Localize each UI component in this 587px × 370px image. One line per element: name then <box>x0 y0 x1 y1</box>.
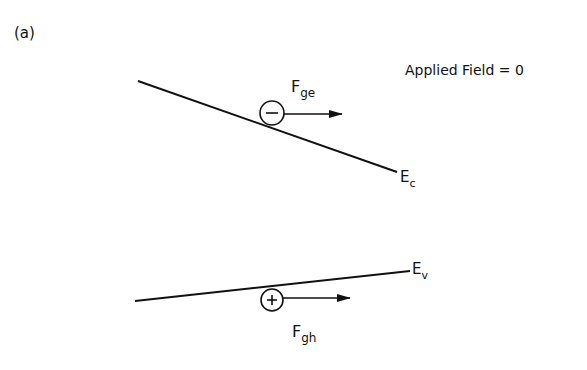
electron-force-label: Fge <box>291 77 315 100</box>
hole-force-label: Fgh <box>292 322 316 345</box>
condition-label: Applied Field = 0 <box>405 62 524 78</box>
conduction-band-line <box>138 81 397 172</box>
band-diagram: (a) Applied Field = 0 Ec Fge Ev Fgh <box>0 0 587 370</box>
panel-label: (a) <box>14 24 35 42</box>
valence-band-label: Ev <box>412 260 428 282</box>
conduction-band-label: Ec <box>400 168 416 190</box>
